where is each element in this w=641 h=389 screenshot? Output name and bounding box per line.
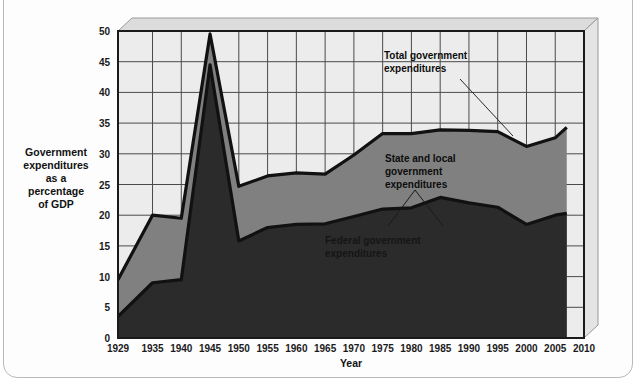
- y-axis-title: Government expenditures as a percentage …: [23, 146, 89, 210]
- state-local-annotation-line-3: expenditures: [385, 179, 448, 190]
- y-axis-title-line-1: Government: [25, 146, 87, 158]
- x-axis-tick-label: 2005: [544, 343, 567, 354]
- x-axis-tick-label: 1945: [199, 343, 222, 354]
- y-axis-tick-label: 50: [99, 26, 111, 37]
- x-axis-title: Year: [340, 357, 362, 369]
- y-axis-title-line-3: as a: [46, 172, 67, 184]
- federal-annotation-line-1: Federal government: [325, 235, 421, 246]
- plot-top-bevel: [118, 18, 598, 31]
- x-axis-tick-label: 1975: [372, 343, 395, 354]
- x-axis-tick-label: 1955: [256, 343, 279, 354]
- y-axis-tick-label: 40: [99, 87, 111, 98]
- y-axis-tick-label: 45: [99, 57, 111, 68]
- state-local-annotation-line-2: government: [385, 166, 443, 177]
- x-axis-tick-label: 1990: [458, 343, 481, 354]
- x-axis-tick-label: 2000: [515, 343, 538, 354]
- y-axis-tick-labels: 05101520253035404550: [99, 26, 111, 344]
- y-axis-title-line-4: percentage: [28, 185, 84, 197]
- y-axis-tick-label: 25: [99, 180, 111, 191]
- state-local-annotation-line-1: State and local: [385, 153, 456, 164]
- y-axis-title-line-2: expenditures: [23, 159, 89, 171]
- x-axis-tick-label: 1985: [429, 343, 452, 354]
- y-axis-tick-label: 5: [104, 302, 110, 313]
- total-gov-annotation-line-2: expenditures: [384, 63, 447, 74]
- x-axis-tick-label: 1950: [228, 343, 251, 354]
- y-axis-tick-label: 15: [99, 241, 111, 252]
- total-gov-annotation-line-1: Total government: [384, 50, 468, 61]
- y-axis-tick-label: 30: [99, 149, 111, 160]
- x-axis-tick-label: 1929: [107, 343, 130, 354]
- y-axis-title-line-5: of GDP: [38, 198, 74, 210]
- stacked-area-chart: 05101520253035404550 1929193519401945195…: [0, 0, 641, 389]
- x-axis-tick-label: 1995: [487, 343, 510, 354]
- y-axis-tick-label: 35: [99, 118, 111, 129]
- x-axis-tick-label: 2010: [573, 343, 596, 354]
- x-axis-tick-label: 1940: [170, 343, 193, 354]
- x-axis-tick-label: 1970: [343, 343, 366, 354]
- y-axis-tick-label: 10: [99, 272, 111, 283]
- chart-figure: 05101520253035404550 1929193519401945195…: [0, 0, 641, 389]
- plot-right-bevel: [584, 18, 598, 338]
- x-axis-tick-label: 1935: [141, 343, 164, 354]
- x-axis-tick-label: 1960: [285, 343, 308, 354]
- federal-annotation-line-2: expenditures: [325, 248, 388, 259]
- x-axis-tick-labels: 1929193519401945195019551960196519701975…: [107, 343, 596, 354]
- x-axis-tick-label: 1965: [314, 343, 337, 354]
- y-axis-tick-label: 20: [99, 210, 111, 221]
- x-axis-tick-label: 1980: [400, 343, 423, 354]
